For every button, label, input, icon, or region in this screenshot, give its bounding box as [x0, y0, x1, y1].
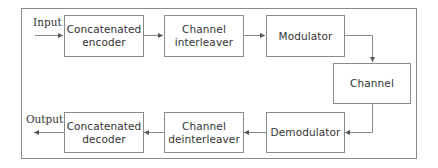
- demodulator-block: Demodulator: [266, 112, 345, 153]
- block-label: deinterleaver: [168, 133, 240, 146]
- input-label: Input: [33, 16, 62, 28]
- channel-block: Channel: [333, 63, 411, 104]
- block-label: Channel: [182, 23, 226, 36]
- block-label: decoder: [82, 133, 125, 146]
- output-label: Output: [26, 113, 63, 125]
- block-label: Concatenated: [67, 120, 142, 133]
- channel-interleaver-block: Channel interleaver: [164, 15, 244, 57]
- block-label: encoder: [82, 36, 125, 49]
- modulator-block: Modulator: [266, 15, 345, 57]
- concatenated-encoder-block: Concatenated encoder: [64, 15, 144, 57]
- block-label: Concatenated: [67, 23, 142, 36]
- block-label: Modulator: [279, 30, 333, 43]
- block-label: Channel: [182, 120, 226, 133]
- block-label: Demodulator: [271, 126, 341, 139]
- concatenated-decoder-block: Concatenated decoder: [64, 112, 144, 153]
- block-label: Channel: [350, 77, 394, 90]
- block-label: interleaver: [175, 36, 233, 49]
- channel-deinterleaver-block: Channel deinterleaver: [164, 112, 244, 153]
